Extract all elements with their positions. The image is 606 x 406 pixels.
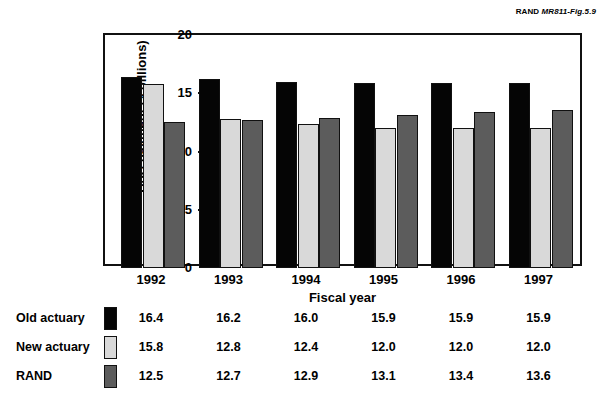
bar-1997-new-actuary (530, 128, 551, 268)
bar-1995-new-actuary (375, 128, 396, 268)
bar-1992-old-actuary (121, 77, 142, 268)
value-1993-new-actuary: 12.8 (189, 340, 269, 354)
source-credit-figure: MR811-Fig.5.9 (542, 7, 597, 16)
bar-1996-old-actuary (431, 83, 452, 268)
value-1997-rand: 13.6 (499, 369, 579, 383)
x-tick-label-1994: 1994 (266, 272, 346, 287)
legend-row-rand: RAND12.512.712.913.113.413.6 (0, 364, 606, 392)
legend-row-old-actuary: Old actuary16.416.216.015.915.915.9 (0, 306, 606, 334)
value-1996-old-actuary: 15.9 (421, 311, 501, 325)
value-1993-old-actuary: 16.2 (189, 311, 269, 325)
x-tick-label-1997: 1997 (499, 272, 579, 287)
bar-1996-rand (474, 112, 495, 268)
x-tick-label-1995: 1995 (344, 272, 424, 287)
bar-1995-rand (397, 115, 418, 268)
value-1996-rand: 13.4 (421, 369, 501, 383)
value-1996-new-actuary: 12.0 (421, 340, 501, 354)
value-1994-old-actuary: 16.0 (266, 311, 346, 325)
bar-1994-old-actuary (276, 82, 297, 268)
value-1997-new-actuary: 12.0 (499, 340, 579, 354)
legend-data-table: Old actuary16.416.216.015.915.915.9New a… (0, 306, 606, 406)
value-1995-old-actuary: 15.9 (344, 311, 424, 325)
value-1994-new-actuary: 12.4 (266, 340, 346, 354)
bar-1994-new-actuary (298, 124, 319, 268)
bar-1993-rand (242, 120, 263, 268)
bar-1992-new-actuary (143, 84, 164, 268)
chart-plot-area: DoD payment ($ billions) 05101520 (103, 33, 582, 266)
x-axis-title: Fiscal year (103, 290, 582, 305)
value-1995-new-actuary: 12.0 (344, 340, 424, 354)
value-1997-old-actuary: 15.9 (499, 311, 579, 325)
x-tick-label-1996: 1996 (421, 272, 501, 287)
value-1992-old-actuary: 16.4 (111, 311, 191, 325)
value-1993-rand: 12.7 (189, 369, 269, 383)
legend-row-new-actuary: New actuary15.812.812.412.012.012.0 (0, 335, 606, 363)
bar-1992-rand (164, 122, 185, 268)
x-tick-label-1993: 1993 (189, 272, 269, 287)
bar-1993-old-actuary (199, 79, 220, 268)
bar-1993-new-actuary (220, 119, 241, 268)
value-1994-rand: 12.9 (266, 369, 346, 383)
bar-1995-old-actuary (354, 83, 375, 268)
value-1992-rand: 12.5 (111, 369, 191, 383)
x-tick-label-1992: 1992 (111, 272, 191, 287)
legend-label: Old actuary (16, 311, 106, 325)
legend-label: New actuary (16, 340, 106, 354)
bar-1996-new-actuary (453, 128, 474, 268)
value-1995-rand: 13.1 (344, 369, 424, 383)
source-credit: RAND MR811-Fig.5.9 (516, 7, 596, 16)
bar-1997-rand (552, 110, 573, 268)
legend-label: RAND (16, 369, 106, 383)
value-1992-new-actuary: 15.8 (111, 340, 191, 354)
bar-1994-rand (319, 118, 340, 268)
bar-1997-old-actuary (509, 83, 530, 268)
source-credit-prefix: RAND (516, 7, 542, 16)
y-tick-label: 20 (152, 26, 192, 43)
